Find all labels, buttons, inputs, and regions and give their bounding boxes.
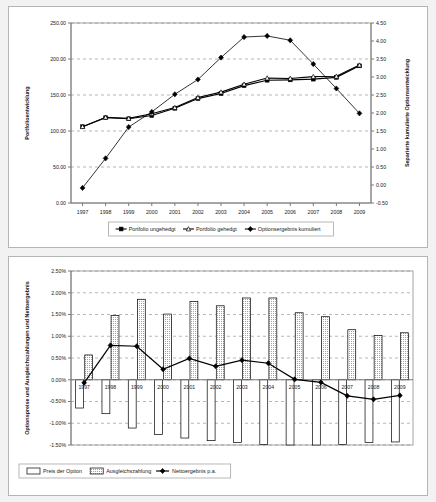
legend-item-1[interactable]: Preis der Option: [27, 468, 82, 474]
bar-ausgleichszahlung: [348, 330, 356, 380]
data-point: [265, 33, 270, 38]
x-axis-tick-label: 2000: [146, 209, 158, 215]
x-axis-tick-label: 2009: [354, 209, 366, 215]
x-axis-tick-label: 2001: [169, 209, 181, 215]
right-axis-tick-label: 3.00: [376, 74, 386, 80]
left-axis-tick-label: 250.00: [50, 20, 66, 26]
lower-x-axis: 1997199819992000200120022003200420052006…: [78, 384, 405, 390]
data-point: [172, 92, 177, 97]
x-axis-tick-label: 2009: [394, 384, 406, 390]
right-axis-tick-label: -0.50: [376, 200, 388, 206]
y-axis-tick-label: 1.50%: [51, 311, 66, 317]
lower-y-axis: -1.50%-1.00%-0.50%0.00%0.50%1.00%1.50%2.…: [50, 268, 71, 448]
legend-label: Portfolio ungehedgt: [129, 226, 176, 232]
legend-label: Portfolio gehedgt: [196, 226, 237, 232]
upper-right-axis: -0.500.000.501.001.502.002.503.003.504.0…: [371, 20, 388, 206]
bar-ausgleichszahlung: [137, 299, 145, 379]
right-axis-tick-label: 2.50: [376, 92, 386, 98]
x-axis-tick-label: 2003: [215, 209, 227, 215]
x-axis-tick-label: 1997: [77, 209, 89, 215]
x-axis-tick-label: 1998: [105, 384, 117, 390]
legend-marker: [119, 227, 123, 231]
x-axis-tick-label: 2008: [331, 209, 343, 215]
legend-swatch: [27, 468, 40, 474]
x-axis-tick-label: 2003: [236, 384, 248, 390]
legend-item-2[interactable]: Ausgleichszahlung: [90, 468, 151, 474]
x-axis-tick-label: 2000: [157, 384, 169, 390]
series-1: [81, 64, 362, 129]
y-axis-tick-label: 2.50%: [51, 268, 66, 274]
x-axis-tick-label: 2001: [184, 384, 196, 390]
portfolio-development-chart-panel: 0.0050.00100.00150.00200.00250.00Portfol…: [8, 6, 428, 248]
portfolio-development-chart: 0.0050.00100.00150.00200.00250.00Portfol…: [9, 7, 427, 247]
left-axis-tick-label: 150.00: [50, 92, 66, 98]
lower-y-axis-title: Optionspreise und Ausgleichszahlungen un…: [24, 281, 30, 434]
y-axis-tick-label: 0.50%: [51, 355, 66, 361]
upper-left-axis: 0.0050.00100.00150.00200.00250.00: [50, 20, 71, 206]
bar-ausgleichszahlung: [374, 335, 382, 379]
right-axis-tick-label: 2.00: [376, 110, 386, 116]
legend-swatch: [90, 468, 103, 474]
right-axis-tick-label: 3.50: [376, 56, 386, 62]
x-axis-tick-label: 2002: [210, 384, 222, 390]
x-axis-tick-label: 2007: [341, 384, 353, 390]
right-axis-tick-label: 1.00: [376, 146, 386, 152]
x-axis-tick-label: 1998: [100, 209, 112, 215]
bar-ausgleichszahlung: [400, 333, 408, 380]
right-axis-tick-label: 4.50: [376, 20, 386, 26]
x-axis-tick-label: 2004: [263, 384, 275, 390]
legend-label: Nettoergebnis p.a.: [172, 468, 216, 474]
bar-ausgleichszahlung: [322, 317, 330, 380]
x-axis-tick-label: 2008: [368, 384, 380, 390]
y-axis-tick-label: -1.50%: [50, 442, 67, 448]
bar-ausgleichszahlung: [111, 315, 119, 379]
x-axis-tick-label: 2005: [289, 384, 301, 390]
series-line: [83, 66, 360, 127]
bar-ausgleichszahlung: [190, 301, 198, 379]
option-costs-chart: -1.50%-1.00%-0.50%0.00%0.50%1.00%1.50%2.…: [9, 257, 427, 495]
legend-label: Preis der Option: [43, 468, 82, 474]
bar-ausgleichszahlung: [295, 313, 303, 380]
series-line: [83, 65, 360, 127]
upper-plot-border: [71, 23, 371, 203]
x-axis-tick-label: 2007: [308, 209, 320, 215]
x-axis-tick-label: 2002: [192, 209, 204, 215]
right-axis-tick-label: 4.00: [376, 38, 386, 44]
right-axis-title: Separierte kumulierte Optionsentwicklung: [404, 59, 410, 167]
y-axis-tick-label: -1.00%: [50, 420, 67, 426]
chart-page: 0.0050.00100.00150.00200.00250.00Portfol…: [0, 0, 436, 502]
right-axis-tick-label: 0.00: [376, 182, 386, 188]
right-axis-tick-label: 1.50: [376, 128, 386, 134]
legend-label: Optionsergebnis kumuliert: [258, 226, 321, 232]
right-axis-tick-label: 0.50: [376, 164, 386, 170]
left-axis-tick-label: 50.00: [53, 164, 66, 170]
y-axis-tick-label: 2.00%: [51, 290, 66, 296]
left-axis-tick-label: 0.00: [56, 200, 66, 206]
y-axis-tick-label: 1.00%: [51, 333, 66, 339]
x-axis-tick-label: 1999: [131, 384, 143, 390]
left-axis-tick-label: 100.00: [50, 128, 66, 134]
x-axis-tick-label: 1999: [123, 209, 135, 215]
left-axis-tick-label: 200.00: [50, 56, 66, 62]
bar-ausgleichszahlung: [243, 298, 251, 380]
bar-ausgleichszahlung: [216, 306, 224, 380]
x-axis-tick-label: 2004: [238, 209, 250, 215]
legend-label: Ausgleichszahlung: [106, 468, 151, 474]
upper-x-axis: 1997199819992000200120022003200420052006…: [71, 203, 371, 215]
x-axis-tick-label: 2006: [284, 209, 296, 215]
left-axis-title: Portfolioentwicklung: [24, 86, 30, 139]
option-costs-chart-panel: -1.50%-1.00%-0.50%0.00%0.50%1.00%1.50%2.…: [8, 256, 428, 496]
y-axis-tick-label: -0.50%: [50, 398, 67, 404]
y-axis-tick-label: 0.00%: [51, 377, 66, 383]
x-axis-tick-label: 2005: [261, 209, 273, 215]
